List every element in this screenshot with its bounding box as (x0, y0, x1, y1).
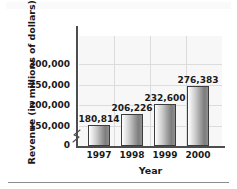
gridline-vertical-2 (150, 36, 151, 146)
x-tick-label-1998: 1998 (116, 150, 148, 161)
x-tick-label-2000: 2000 (182, 150, 214, 161)
bar-1998 (121, 114, 143, 146)
x-tick-label-1997: 1997 (83, 150, 115, 161)
bar-1997 (88, 125, 110, 146)
bottom-divider (8, 182, 229, 183)
x-axis-line (76, 146, 225, 148)
revenue-bar-chart: Revenue (in millions of dollars) 300,000… (0, 0, 237, 189)
bar-label-1998: 206,226 (108, 103, 156, 113)
y-tick-label-150000: 150,000 (29, 121, 70, 131)
gridline-vertical-1 (114, 36, 115, 146)
axis-break-icon (71, 128, 83, 144)
y-tick-label-0: 0 (64, 140, 70, 150)
bar-1999 (154, 104, 176, 146)
bar-label-2000: 276,383 (174, 75, 222, 85)
bar-2000 (187, 86, 209, 146)
bar-label-1997: 180,814 (75, 114, 123, 124)
y-tick-label-300000: 300,000 (29, 59, 70, 69)
y-tick-label-200000: 200,000 (29, 100, 70, 110)
x-axis-title: Year (79, 165, 222, 176)
y-tick-label-250000: 250,000 (29, 80, 70, 90)
bar-label-1999: 232,600 (141, 93, 189, 103)
top-band (6, 2, 231, 9)
x-tick-label-1999: 1999 (149, 150, 181, 161)
